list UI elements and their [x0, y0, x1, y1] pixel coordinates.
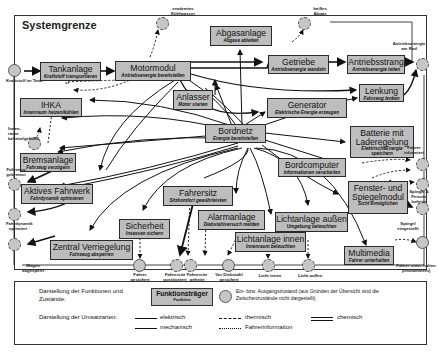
- box-anlasser: Anlasser Motor starten: [173, 90, 213, 110]
- legend-flows-label: Darstellung der Umsatzarten:: [39, 314, 119, 322]
- box-title: Alarmanlage: [199, 213, 264, 222]
- box-title: Abgasanlage: [211, 29, 271, 38]
- state-abgase: [298, 17, 311, 30]
- state-fahrer-informiert: [416, 158, 429, 171]
- legend: Darstellung der Funktionen und Zustände:…: [14, 281, 427, 345]
- box-function: Sicht ermöglichen: [349, 202, 407, 207]
- legend-fahrerinformation-label: Fahrerinformation: [245, 324, 292, 332]
- box-lenkung: Lenkung Fahrzeug lenken: [359, 84, 404, 102]
- box-title: Lenkung: [360, 87, 403, 96]
- box-function: Energie bereitstellen: [206, 137, 265, 142]
- legend-functions-label: Darstellung der Funktionen und Zustände:: [39, 288, 149, 304]
- box-motormodul: Motormodul Antriebsenergie bereitstellen: [115, 61, 191, 81]
- state-antriebsenergie-rad: [416, 58, 429, 71]
- state-label: heißes Abgas: [310, 7, 330, 17]
- box-function: Fahrer unterhalten: [345, 259, 393, 264]
- legend-mechanisch-label: mechanisch: [160, 324, 192, 332]
- box-title: Tankanlage: [41, 65, 100, 74]
- legend-line-chemisch: [311, 317, 333, 321]
- box-title: Anlasser: [174, 93, 212, 102]
- legend-chemisch-label: chemisch: [337, 314, 362, 322]
- box-function: Antriebsenergie bereitstellen: [116, 74, 190, 79]
- state-wagen: [8, 238, 21, 251]
- box-sicherheit: Sicherheit Insassen sichern: [119, 219, 170, 239]
- state-label: Kraftstoff im Tank: [6, 79, 30, 84]
- box-function: Diebstahlversuch melden: [199, 223, 264, 228]
- state-fahrdynamik: [8, 208, 21, 221]
- box-tankanlage: Tankanlage Kraftstoff transportieren: [40, 62, 101, 81]
- legend-sample-box-title: Funktionsträger: [152, 290, 212, 297]
- state-spiegel-eingestellt: [416, 202, 429, 215]
- box-generator: Generator Elektrische Energie erzeugen: [267, 98, 347, 118]
- box-function: Umgebung beleuchten: [276, 225, 347, 230]
- box-title: Bordcomputer: [279, 161, 345, 170]
- box-title: Generator: [268, 101, 346, 110]
- box-antriebsstrang: Antriebsstrang Antriebsenergie leiten: [347, 55, 405, 74]
- box-bordcomputer: Bordcomputer Informationen verarbeiten: [278, 158, 346, 177]
- box-function: Fahrzeug verzögern: [21, 166, 75, 171]
- box-function: Innenraum heizen/kühlen: [21, 111, 81, 116]
- box-title: Lichtanlage innen: [236, 235, 305, 244]
- box-title: Laderegelung: [351, 138, 413, 147]
- legend-state-desc: Ein- bzw. Ausgangszustand (aus Gründen d…: [236, 288, 406, 301]
- box-function: Motor starten: [174, 103, 212, 108]
- box-title: Fahrersitz: [164, 189, 232, 198]
- box-lichtanlage-aussen: Lichtanlage außen Umgebung beleuchten: [275, 212, 348, 232]
- state-licht-innen: [262, 259, 275, 272]
- box-function: Antriebsenergie leiten: [348, 68, 404, 73]
- legend-sample-box: Funktionsträger Funktion: [151, 288, 213, 306]
- box-function: Fahrzeug absperren: [51, 253, 132, 258]
- state-fahrersitz-positioniert: [170, 259, 183, 272]
- state-label: Fahrer unter-halten (Infotainment): [396, 264, 436, 274]
- state-label: Fahrdynamik optimiert: [6, 222, 30, 232]
- box-function: Insassen sichern: [120, 232, 169, 237]
- state-fahrer-gesichert: [133, 259, 146, 272]
- state-kuehlwasser: [156, 17, 169, 30]
- box-title: Bordnetz: [206, 127, 265, 136]
- box-abgasanlage: Abgasanlage Abgase ableiten: [210, 26, 272, 46]
- box-title: Motormodul: [116, 64, 190, 73]
- box-function: Informationen verarbeiten: [279, 171, 345, 176]
- box-function: Antriebsenergie wandeln: [269, 68, 328, 73]
- box-alarmanlage: Alarmanlage Diebstahlversuch melden: [198, 210, 265, 230]
- box-function: Innenraum beleuchten: [236, 245, 305, 250]
- legend-state-circle: [219, 290, 232, 303]
- state-fahrzeug-gebremst: [8, 178, 21, 191]
- box-title: Spiegelmodul: [349, 193, 407, 202]
- box-title: Getriebe: [269, 58, 328, 67]
- state-label: Wagen abgesperrt: [22, 264, 44, 274]
- box-function: Sitzkomfort gewährleisten: [164, 199, 232, 204]
- state-label: Spiegel eingestellt: [396, 222, 420, 232]
- box-title: Lichtanlage außen: [276, 215, 347, 224]
- box-title: IHKA: [21, 101, 81, 110]
- state-label: Innen-raum beheizt/gekühlt: [8, 127, 30, 142]
- box-function: Fahrzeug lenken: [360, 97, 403, 102]
- state-fahrersitz-geheizt: [184, 259, 197, 272]
- box-fahrersitz: Fahrersitz Sitzkomfort gewährleisten: [163, 186, 233, 206]
- state-licht-aussen: [302, 259, 315, 272]
- box-bremsanlage: Bremsanlage Fahrzeug verzögern: [20, 153, 76, 172]
- legend-line-fahrerinformation: [219, 328, 241, 329]
- state-label: Licht innen: [258, 274, 282, 279]
- box-function: Elektrische Energie erzeugen: [268, 111, 346, 116]
- box-multimedia: Multimedia Fahrer unterhalten: [344, 246, 394, 265]
- state-kraftstoff: [8, 64, 21, 77]
- state-label: erwärmtes Kühlwasser: [168, 7, 198, 17]
- box-lichtanlage-innen: Lichtanlage innen Innenraum beleuchten: [235, 232, 306, 252]
- box-function: Kraftstoff transportieren: [41, 75, 100, 80]
- box-title: Multimedia: [345, 249, 393, 258]
- box-bordnetz: Bordnetz Energie bereitstellen: [205, 124, 266, 143]
- box-zentral-verriegelung: Zentral Verriegelung Fahrzeug absperren: [50, 240, 133, 260]
- box-fenster-spiegelmodul: Fenster- und Spiegelmodul Sicht ermöglic…: [348, 181, 408, 214]
- legend-line-thermisch: [219, 318, 241, 319]
- legend-sample-box-function: Funktion: [152, 297, 212, 302]
- box-title: Sicherheit: [120, 222, 169, 231]
- diagram-stage: Systemgrenze: [0, 0, 439, 355]
- state-label: Antriebsenergie am Rad: [389, 42, 429, 52]
- box-aktives-fahrwerk: Aktives Fahrwerk Fahrdynamik optimieren: [21, 184, 93, 204]
- state-label: Fahrzeug gebremst: [6, 168, 26, 178]
- box-getriebe: Getriebe Antriebsenergie wandeln: [268, 55, 329, 74]
- box-function: Fahrdynamik optimieren: [22, 197, 92, 202]
- legend-elektrisch-label: elektrisch: [160, 314, 185, 322]
- state-label: Licht außen: [298, 274, 322, 279]
